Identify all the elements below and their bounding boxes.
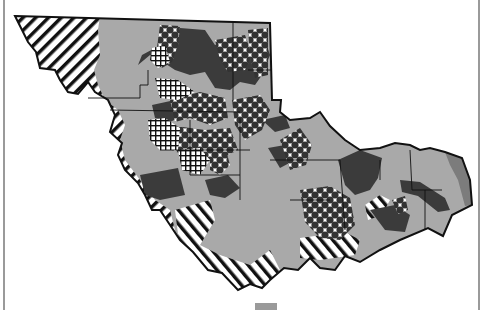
bottom-edge-mark — [255, 303, 277, 310]
map-fills — [0, 0, 490, 310]
region-map — [0, 0, 490, 310]
